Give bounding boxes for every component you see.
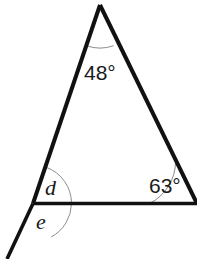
figure-background [0, 0, 197, 259]
d-angle-label: d [45, 177, 56, 199]
triangle-diagram-svg [0, 0, 197, 259]
geometry-figure: 48° 63° d e [0, 0, 197, 259]
apex-angle-label: 48° [84, 62, 116, 83]
e-angle-label: e [36, 211, 46, 233]
right-vertex-angle-label: 63° [149, 175, 181, 196]
